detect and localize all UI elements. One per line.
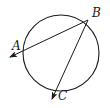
- label-b: B: [91, 6, 101, 20]
- label-c: C: [58, 89, 67, 103]
- diagram-canvas: A B C: [0, 0, 110, 108]
- label-a: A: [11, 39, 21, 53]
- ray-b-to-a: [10, 20, 88, 57]
- ray-b-to-c: [52, 20, 88, 99]
